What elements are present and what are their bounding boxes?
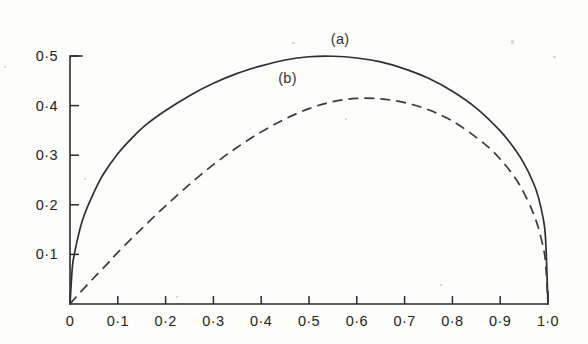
x-tick-label: 0·5 bbox=[298, 313, 320, 329]
curve-label-b: (b) bbox=[278, 70, 297, 86]
y-tick-label: 0·2 bbox=[36, 197, 58, 213]
y-axis-tick-labels: 0·10·20·30·40·5 bbox=[36, 48, 58, 262]
curve-a-solid bbox=[70, 56, 548, 304]
x-tick-label: 0·2 bbox=[155, 313, 177, 329]
x-tick-label: 0·1 bbox=[107, 313, 129, 329]
chart-canvas: 00·10·20·30·40·50·60·70·80·91·0 0·10·20·… bbox=[0, 0, 588, 344]
x-tick-label: 0·6 bbox=[346, 313, 368, 329]
tick-marks bbox=[70, 56, 500, 304]
x-tick-label: 0·7 bbox=[394, 313, 416, 329]
x-tick-label: 0 bbox=[66, 313, 74, 329]
x-tick-label: 0·9 bbox=[489, 313, 511, 329]
y-tick-label: 0·1 bbox=[36, 246, 58, 262]
x-tick-label: 0·8 bbox=[441, 313, 463, 329]
curve-label-a: (a) bbox=[331, 31, 350, 47]
x-tick-label: 0·4 bbox=[250, 313, 272, 329]
axes bbox=[70, 56, 548, 304]
y-tick-label: 0·4 bbox=[36, 98, 58, 114]
y-tick-label: 0·3 bbox=[36, 147, 58, 163]
y-tick-label: 0·5 bbox=[36, 48, 58, 64]
x-tick-label: 1·0 bbox=[537, 313, 559, 329]
x-axis-tick-labels: 00·10·20·30·40·50·60·70·80·91·0 bbox=[66, 313, 559, 329]
figure-panel: 00·10·20·30·40·50·60·70·80·91·0 0·10·20·… bbox=[0, 0, 588, 344]
x-tick-label: 0·3 bbox=[202, 313, 224, 329]
axis-spine bbox=[70, 56, 548, 304]
